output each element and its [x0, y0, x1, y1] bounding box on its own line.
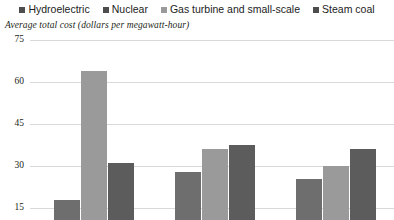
bar[interactable]	[108, 163, 134, 220]
bar[interactable]	[175, 172, 201, 220]
bar[interactable]	[350, 149, 376, 220]
bar[interactable]	[229, 145, 255, 220]
bar[interactable]	[81, 71, 107, 220]
bar[interactable]	[296, 179, 322, 220]
bar[interactable]	[54, 200, 80, 220]
bar[interactable]	[202, 149, 228, 220]
bar-chart: 1530456075	[0, 0, 394, 220]
bars	[0, 0, 394, 220]
bar[interactable]	[323, 166, 349, 220]
